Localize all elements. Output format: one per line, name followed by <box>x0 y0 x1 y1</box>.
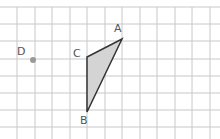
label-d: D <box>17 46 25 57</box>
grid-diagram <box>0 0 220 139</box>
label-a: A <box>114 23 122 34</box>
label-b: B <box>80 115 88 126</box>
point-d <box>30 57 36 63</box>
grid-lines <box>0 7 220 139</box>
label-c: C <box>73 48 81 59</box>
